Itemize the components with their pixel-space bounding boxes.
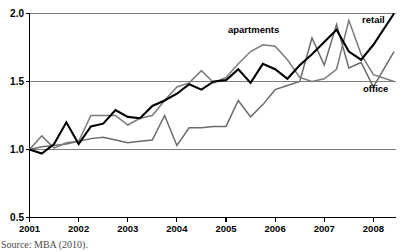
- x-tick-label-2006: 2006: [255, 224, 295, 234]
- series-annotation-apartments: apartments: [228, 25, 279, 35]
- x-tick-label-2002: 2002: [59, 224, 99, 234]
- axes: [30, 14, 396, 218]
- series-annotation-retail: retail: [362, 15, 385, 25]
- series-annotation-office: office: [363, 84, 388, 94]
- chart-plot-area: [0, 0, 406, 252]
- x-tick-label-2004: 2004: [157, 224, 197, 234]
- y-tick-label-2-0: 2.0: [0, 9, 24, 19]
- x-tick-label-2005: 2005: [206, 224, 246, 234]
- y-tick-label-0-5: 0.5: [0, 213, 24, 223]
- y-tick-label-1-5: 1.5: [0, 77, 24, 87]
- source-note: Source: MBA (2010).: [1, 239, 88, 250]
- x-tick-label-2001: 2001: [10, 224, 50, 234]
- chart-figure: 2.0 1.5 1.0 0.5 200120022003200420052006…: [0, 0, 406, 252]
- series-layer: [30, 14, 395, 154]
- x-tick-label-2008: 2008: [353, 224, 393, 234]
- x-tick-label-2007: 2007: [304, 224, 344, 234]
- y-tick-label-1-0: 1.0: [0, 145, 24, 155]
- x-tick-label-2003: 2003: [108, 224, 148, 234]
